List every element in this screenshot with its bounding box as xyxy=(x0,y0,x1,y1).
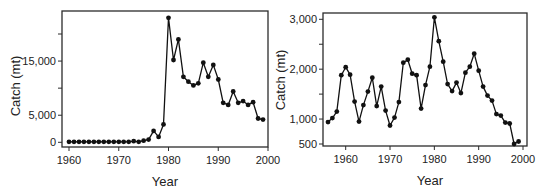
data-point xyxy=(467,64,472,69)
x-tick-label: 1980 xyxy=(156,154,180,166)
data-point xyxy=(472,51,477,56)
data-point xyxy=(410,71,415,76)
data-point xyxy=(490,98,495,103)
data-point xyxy=(136,139,141,144)
y-axis-label: Catch (mt) xyxy=(273,50,288,111)
data-point xyxy=(96,139,101,144)
data-point xyxy=(241,99,246,104)
y-tick-label: 500 xyxy=(299,138,317,150)
y-axis-label: Catch (mt) xyxy=(8,56,23,117)
data-point xyxy=(166,15,171,20)
data-point xyxy=(82,139,87,144)
data-point xyxy=(481,84,486,89)
data-point xyxy=(77,139,82,144)
fishery-catch-charts: 05,00015,00019601970198019902000YearCatc… xyxy=(0,0,543,195)
data-point xyxy=(161,122,166,127)
x-tick-label: 2000 xyxy=(256,154,280,166)
x-tick-label: 1980 xyxy=(422,153,446,165)
data-point xyxy=(176,37,181,42)
y-tick-label: 5,000 xyxy=(28,109,56,121)
data-point xyxy=(216,77,221,82)
data-point xyxy=(348,72,353,77)
data-point xyxy=(397,100,402,105)
data-point xyxy=(339,73,344,78)
data-point xyxy=(191,83,196,88)
data-point xyxy=(251,100,256,105)
data-point xyxy=(246,103,251,108)
y-tick-label: 1,000 xyxy=(289,113,317,125)
data-point xyxy=(121,139,126,144)
x-tick-label: 1960 xyxy=(333,153,357,165)
data-point xyxy=(211,63,216,68)
data-point xyxy=(388,123,393,128)
data-point xyxy=(67,139,72,144)
x-axis-label: Year xyxy=(417,173,444,188)
data-point xyxy=(366,89,371,94)
data-point xyxy=(405,57,410,62)
data-point xyxy=(343,65,348,70)
data-point xyxy=(516,139,521,144)
data-point xyxy=(226,103,231,108)
data-point xyxy=(498,113,503,118)
y-tick-label: 2,000 xyxy=(289,63,317,75)
x-axis-label: Year xyxy=(152,174,179,189)
data-point xyxy=(454,80,459,85)
data-point xyxy=(72,139,77,144)
data-point xyxy=(92,139,97,144)
y-tick-label: 15,000 xyxy=(22,55,56,67)
data-point xyxy=(131,139,136,144)
data-point xyxy=(485,93,490,98)
data-point xyxy=(256,116,261,121)
data-point xyxy=(419,106,424,111)
data-point xyxy=(361,103,366,108)
data-point xyxy=(512,142,517,147)
data-point xyxy=(111,139,116,144)
data-point xyxy=(503,120,508,125)
data-point xyxy=(101,139,106,144)
data-point xyxy=(476,68,481,73)
data-point xyxy=(186,79,191,84)
chart-2: 5001,0002,0003,00019601970198019902000Ye… xyxy=(273,13,535,188)
data-point xyxy=(494,112,499,117)
data-point xyxy=(151,129,156,134)
data-point xyxy=(87,139,92,144)
x-tick-label: 1990 xyxy=(466,153,490,165)
data-point xyxy=(450,89,455,94)
data-point xyxy=(116,139,121,144)
data-point xyxy=(196,81,201,86)
x-tick-label: 1990 xyxy=(206,154,230,166)
data-point xyxy=(330,116,335,121)
data-point xyxy=(236,100,241,105)
data-point xyxy=(374,104,379,109)
data-point xyxy=(352,99,357,104)
data-point xyxy=(171,58,176,63)
data-point xyxy=(357,119,362,124)
data-point xyxy=(334,109,339,114)
data-point xyxy=(392,115,397,120)
y-tick-label: 3,000 xyxy=(289,13,317,25)
data-point xyxy=(206,74,211,79)
data-point xyxy=(201,60,206,65)
data-point xyxy=(459,91,464,96)
data-point xyxy=(423,83,428,88)
data-point xyxy=(436,39,441,44)
x-tick-label: 2000 xyxy=(511,153,535,165)
data-point xyxy=(401,60,406,65)
data-point xyxy=(106,139,111,144)
data-point xyxy=(507,121,512,126)
data-point xyxy=(181,74,186,79)
data-point xyxy=(383,108,388,113)
data-point xyxy=(326,120,331,125)
data-point xyxy=(126,139,131,144)
data-point xyxy=(141,138,146,143)
data-point xyxy=(432,15,437,20)
data-point xyxy=(221,100,226,105)
data-point xyxy=(445,82,450,87)
data-point xyxy=(231,89,236,94)
data-point xyxy=(156,135,161,140)
y-tick-label: 0 xyxy=(50,136,56,148)
data-point xyxy=(441,59,446,64)
data-point xyxy=(463,70,468,75)
data-point xyxy=(414,73,419,78)
data-point xyxy=(261,117,266,122)
